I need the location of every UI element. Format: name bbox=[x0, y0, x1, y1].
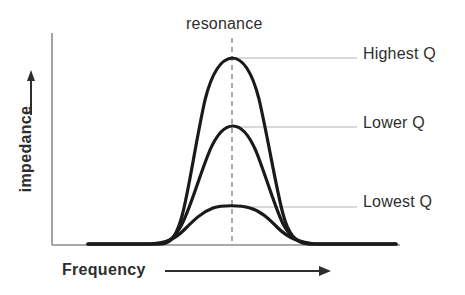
curve-highest-q bbox=[88, 58, 396, 244]
x-axis-arrow-head bbox=[319, 266, 331, 276]
resonance-curves-figure: resonance Highest Q Lower Q Lowest Q Fre… bbox=[0, 0, 465, 295]
series-label-lower-q: Lower Q bbox=[363, 114, 425, 132]
chart-title-resonance: resonance bbox=[186, 15, 263, 33]
x-axis-label: Frequency bbox=[62, 261, 146, 279]
series-label-lowest-q: Lowest Q bbox=[363, 193, 432, 211]
curve-lower-q bbox=[88, 126, 396, 244]
curve-lowest-q bbox=[88, 206, 396, 244]
y-axis-label: impedance bbox=[17, 89, 35, 209]
y-axis-arrow-head bbox=[27, 70, 35, 81]
series-label-highest-q: Highest Q bbox=[363, 45, 436, 63]
